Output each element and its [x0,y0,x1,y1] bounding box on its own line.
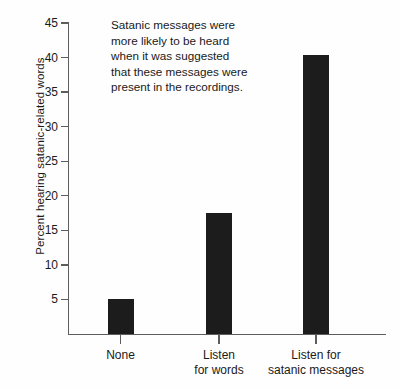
y-tick-label-15: 15 [18,224,58,236]
y-tick-label-5: 5 [18,293,58,305]
y-tick-40 [61,57,69,58]
y-tick-5 [61,299,69,300]
y-tick-label-10: 10 [18,259,58,271]
y-tick-label-35: 35 [18,86,58,98]
y-tick-25 [61,161,69,162]
y-tick-label-25: 25 [18,155,58,167]
y-tick-label-30: 30 [18,121,58,133]
y-tick-45 [61,22,69,23]
bar-3 [303,55,329,334]
bar-1 [108,299,134,334]
y-tick-label-45: 45 [18,17,58,29]
bar-chart-figure: Percent hearing satanic-related words 51… [0,0,399,390]
x-tick-1 [120,335,121,344]
x-axis-line [68,334,386,335]
x-category-label-3: Listen for satanic messages [246,348,386,377]
chart-annotation: Satanic messages were more likely to be … [111,17,311,95]
bar-2 [206,213,232,334]
y-tick-20 [61,195,69,196]
y-tick-35 [61,91,69,92]
y-tick-30 [61,126,69,127]
y-axis-line [68,23,69,335]
y-tick-10 [61,264,69,265]
x-tick-2 [218,335,219,344]
y-tick-15 [61,230,69,231]
y-tick-label-20: 20 [18,190,58,202]
x-tick-3 [315,335,316,344]
y-tick-label-40: 40 [18,52,58,64]
